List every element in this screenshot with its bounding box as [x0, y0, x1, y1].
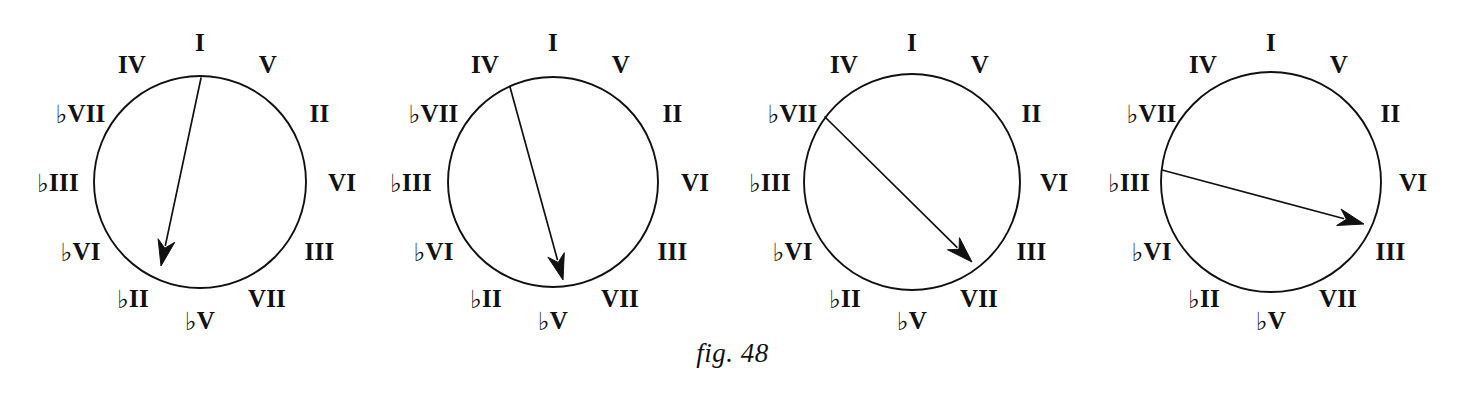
degree-roman-numeral: VI	[1399, 169, 1427, 196]
degree-roman-numeral: V	[1268, 307, 1286, 334]
degree-roman-numeral: VII	[1319, 285, 1357, 312]
flat-accidental-icon: ♭	[1188, 286, 1200, 313]
degree-roman-numeral: VII	[1138, 100, 1176, 127]
figure-caption: fig. 48	[0, 338, 1465, 369]
degree-roman-numeral: II	[1381, 100, 1401, 127]
degree-label-i: I	[1266, 30, 1276, 55]
degree-label-flat-vi: ♭VI	[1131, 239, 1171, 264]
circle-flat-iii-to-iii: IVIIVIIIIVII♭V♭II♭VI♭III♭VIIIV	[0, 0, 1465, 330]
degree-label-vi: VI	[1399, 170, 1427, 195]
degree-roman-numeral: VI	[1143, 238, 1171, 265]
degree-label-flat-vii: ♭VII	[1126, 101, 1176, 126]
flat-accidental-icon: ♭	[1256, 308, 1268, 335]
degree-label-flat-iii: ♭III	[1108, 170, 1150, 195]
degree-label-ii: II	[1381, 101, 1401, 126]
degree-label-iii: III	[1376, 239, 1406, 264]
degree-roman-numeral: IV	[1189, 51, 1217, 78]
degree-label-flat-v: ♭V	[1256, 308, 1286, 333]
degree-label-iv: IV	[1189, 52, 1217, 77]
degree-label-v: V	[1330, 52, 1348, 77]
flat-accidental-icon: ♭	[1108, 170, 1120, 197]
degree-label-flat-ii: ♭II	[1188, 286, 1220, 311]
degree-roman-numeral: III	[1376, 238, 1406, 265]
degree-roman-numeral: V	[1330, 51, 1348, 78]
degree-roman-numeral: III	[1120, 169, 1150, 196]
circle-flat-iii-to-iii-graphic	[0, 0, 1465, 330]
flat-accidental-icon: ♭	[1126, 101, 1138, 128]
degree-label-vii: VII	[1319, 286, 1357, 311]
chromatic-circle-ring	[1161, 72, 1381, 292]
flat-accidental-icon: ♭	[1131, 239, 1143, 266]
degree-roman-numeral: I	[1266, 29, 1276, 56]
degree-roman-numeral: II	[1200, 285, 1220, 312]
interval-arrow-shaft	[1162, 170, 1343, 218]
